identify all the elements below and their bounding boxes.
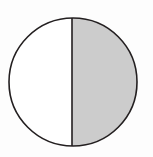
circle-halved-diagram [0, 0, 153, 157]
circle-right-half-shaded [72, 16, 139, 148]
figure-container [0, 0, 153, 157]
